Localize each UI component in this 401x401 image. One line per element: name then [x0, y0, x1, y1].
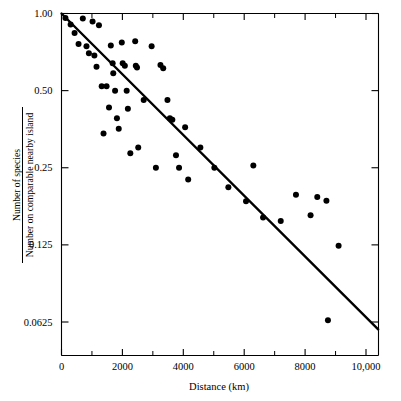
data-point — [225, 184, 231, 190]
y-axis-title: Number of species Number on comparable n… — [11, 107, 35, 263]
x-tick-label: 2000 — [112, 361, 133, 372]
data-point — [125, 106, 131, 112]
data-point — [243, 198, 249, 204]
data-point — [169, 117, 175, 123]
data-point — [182, 124, 188, 130]
data-point — [112, 88, 118, 94]
x-tick-label: 4000 — [173, 361, 194, 372]
data-point — [308, 212, 314, 218]
x-axis-title: Distance (km) — [189, 381, 249, 393]
data-point — [127, 150, 133, 156]
data-point — [122, 63, 128, 69]
scatter-plot: 0200040006000800010,0001.000.500.250.125… — [0, 0, 401, 401]
y-tick-label: 0.0625 — [24, 317, 53, 328]
data-point — [80, 16, 86, 22]
x-tick-label: 10,000 — [352, 361, 381, 372]
plot-frame — [62, 14, 379, 356]
data-point — [83, 43, 89, 49]
axis-ticks — [62, 14, 379, 356]
data-point — [96, 22, 102, 28]
y-tick-label: 0.50 — [34, 85, 52, 96]
data-point — [211, 165, 217, 171]
data-point — [260, 214, 266, 220]
data-point — [278, 218, 284, 224]
data-point — [68, 22, 74, 28]
data-point — [72, 30, 78, 36]
data-point — [110, 70, 116, 76]
data-point — [325, 317, 331, 323]
data-point — [293, 192, 299, 198]
data-point — [160, 65, 166, 71]
data-point — [86, 50, 92, 56]
y-tick-label: 0.25 — [34, 162, 52, 173]
data-point — [197, 144, 203, 150]
y-axis-title-numerator: Number of species — [11, 149, 22, 221]
data-point — [173, 152, 179, 158]
data-point — [336, 243, 342, 249]
chart-container: 0200040006000800010,0001.000.500.250.125… — [0, 0, 401, 401]
data-point — [185, 176, 191, 182]
data-point — [94, 64, 100, 70]
x-tick-label: 0 — [59, 361, 64, 372]
data-point — [114, 115, 120, 121]
y-tick-label: 1.00 — [34, 8, 52, 19]
axis-tick-labels: 0200040006000800010,0001.000.500.250.125… — [24, 8, 381, 371]
data-point — [106, 104, 112, 110]
data-point — [104, 83, 110, 89]
data-point — [90, 19, 96, 25]
data-point — [323, 198, 329, 204]
trend-line — [62, 14, 379, 330]
data-point — [250, 163, 256, 169]
x-tick-label: 6000 — [234, 361, 255, 372]
data-point — [132, 38, 138, 44]
data-point — [119, 40, 125, 46]
x-tick-label: 8000 — [295, 361, 316, 372]
data-points — [62, 15, 341, 323]
data-point — [134, 65, 140, 71]
data-point — [110, 60, 116, 66]
data-point — [149, 43, 155, 49]
y-axis-title-denominator: Number on comparable nearby island — [24, 113, 35, 258]
data-point — [153, 165, 159, 171]
data-point — [176, 165, 182, 171]
data-point — [101, 131, 107, 137]
regression-line — [62, 14, 379, 330]
data-point — [164, 97, 170, 103]
data-point — [91, 53, 97, 59]
data-point — [108, 43, 114, 49]
data-point — [141, 97, 147, 103]
data-point — [135, 144, 141, 150]
data-point — [314, 194, 320, 200]
data-point — [62, 15, 68, 21]
data-point — [76, 41, 82, 47]
data-point — [124, 88, 130, 94]
data-point — [116, 126, 122, 132]
